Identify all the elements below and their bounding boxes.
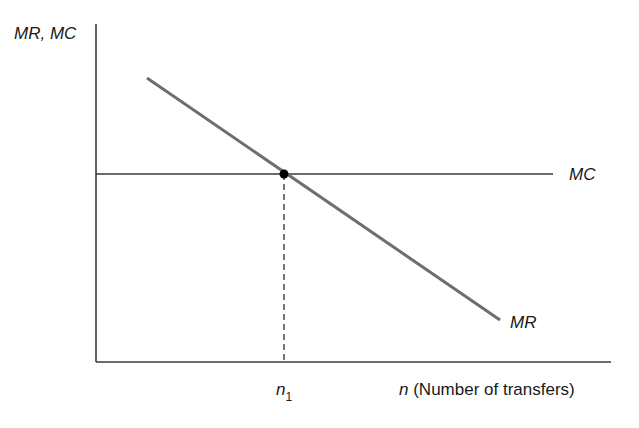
equilibrium-point (280, 170, 289, 179)
y-axis-label: MR, MC (14, 24, 76, 44)
x-axis-label: n (Number of transfers) (399, 380, 575, 400)
mr-label: MR (510, 313, 536, 333)
n1-subscript: 1 (285, 390, 292, 404)
x-axis-text: (Number of transfers) (408, 380, 574, 399)
mr-line (147, 78, 500, 320)
n1-tick-label: n1 (276, 380, 292, 400)
diagram-canvas (0, 0, 639, 428)
mc-label: MC (569, 165, 595, 185)
